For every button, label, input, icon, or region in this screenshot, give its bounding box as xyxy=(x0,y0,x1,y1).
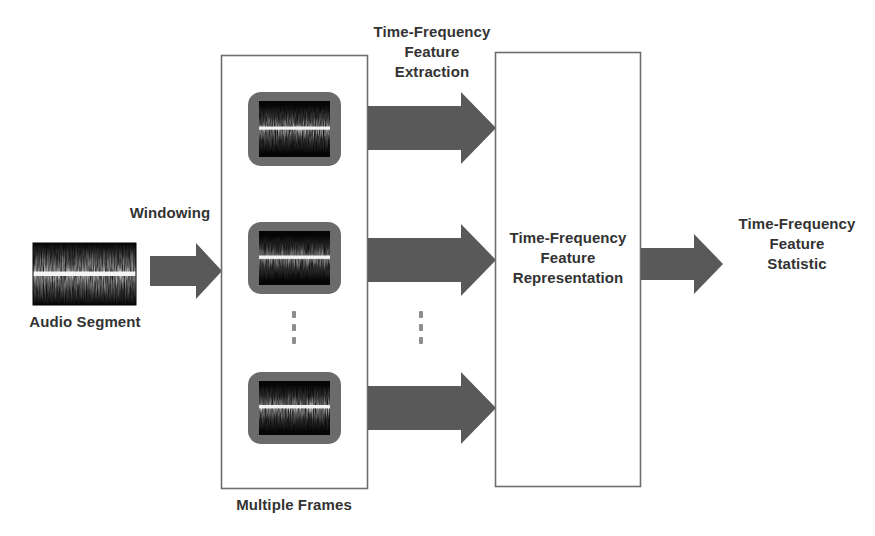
multiple-frames-label: Multiple Frames xyxy=(214,495,374,515)
frames-ellipsis xyxy=(292,311,296,344)
extraction-label: Time-Frequency Feature Extraction xyxy=(352,22,512,82)
arrows-ellipsis xyxy=(419,311,423,344)
audio-segment-image xyxy=(33,243,136,305)
audio-segment-label: Audio Segment xyxy=(10,312,160,332)
tf-representation-label: Time-Frequency Feature Representation xyxy=(498,228,638,288)
windowing-arrow xyxy=(150,243,222,299)
tf-statistic-label: Time-Frequency Feature Statistic xyxy=(727,214,867,274)
statistic-arrow xyxy=(641,234,723,294)
frame-1 xyxy=(248,92,341,166)
extraction-arrow-1 xyxy=(368,92,496,164)
frame-2 xyxy=(248,222,341,294)
frame-3 xyxy=(248,372,341,444)
windowing-label: Windowing xyxy=(110,203,230,223)
extraction-arrow-2 xyxy=(368,224,496,296)
extraction-arrow-3 xyxy=(368,372,496,444)
